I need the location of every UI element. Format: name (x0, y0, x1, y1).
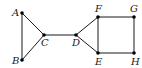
node-label-h: H (130, 56, 140, 67)
node-f (96, 15, 100, 19)
node-label-g: G (130, 3, 138, 14)
edge-d-f (76, 17, 98, 35)
node-b (20, 58, 24, 62)
node-label-e: E (94, 56, 103, 67)
graph-diagram: ABCDFGEH (0, 0, 142, 68)
node-label-d: D (71, 37, 80, 48)
node-label-c: C (41, 37, 49, 48)
node-g (132, 15, 136, 19)
node-label-b: B (11, 55, 19, 66)
node-h (132, 51, 136, 55)
node-label-a: A (11, 7, 19, 18)
node-e (96, 51, 100, 55)
edge-a-c (22, 13, 44, 35)
node-a (20, 11, 24, 15)
node-label-f: F (94, 3, 103, 14)
